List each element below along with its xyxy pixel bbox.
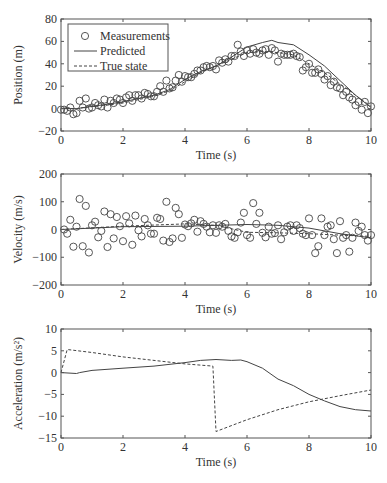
legend: MeasurementsPredictedTrue state — [68, 24, 170, 73]
y-axis-label: Position (m) — [11, 45, 25, 105]
measurement-marker — [129, 241, 136, 248]
measurement-marker — [113, 213, 120, 220]
true-state-line — [61, 350, 371, 432]
x-axis-label: Time (s) — [196, 148, 237, 162]
measurement-marker — [315, 243, 322, 250]
measurement-marker — [175, 211, 182, 218]
y-tick-label: 10 — [45, 322, 57, 336]
measurement-marker — [163, 77, 170, 84]
figure: 0246810−20020406080Time (s)Position (m)M… — [0, 0, 387, 483]
y-tick-label: −5 — [44, 387, 57, 401]
x-tick-label: 2 — [120, 133, 126, 147]
y-tick-label: 40 — [45, 57, 57, 71]
x-tick-label: 10 — [365, 440, 377, 454]
y-tick-label: −15 — [38, 431, 57, 445]
measurement-marker — [247, 234, 254, 241]
measurement-marker — [278, 236, 285, 243]
measurement-marker — [274, 58, 281, 65]
y-tick-label: 80 — [45, 12, 57, 26]
measurement-marker — [281, 229, 288, 236]
legend-label: Measurements — [100, 29, 170, 43]
measurement-marker — [333, 250, 340, 257]
measurement-marker — [132, 212, 139, 219]
y-tick-label: 20 — [45, 79, 57, 93]
y-tick-label: 0 — [51, 223, 57, 237]
measurement-marker — [98, 227, 105, 234]
measurement-marker — [200, 220, 207, 227]
x-tick-label: 6 — [244, 287, 250, 301]
x-tick-label: 10 — [365, 287, 377, 301]
measurement-marker — [70, 243, 77, 250]
x-tick-label: 8 — [306, 287, 312, 301]
x-tick-label: 2 — [120, 287, 126, 301]
predicted-line — [61, 360, 371, 412]
measurement-marker — [346, 248, 353, 255]
x-tick-label: 8 — [306, 440, 312, 454]
velocity-chart: 0246810−200−1000100200Time (s)Velocity (… — [11, 167, 377, 316]
measurement-marker — [312, 250, 319, 257]
acceleration-series — [61, 350, 371, 432]
y-tick-label: 5 — [51, 344, 57, 358]
measurement-marker — [104, 243, 111, 250]
measurement-marker — [157, 83, 164, 90]
measurement-marker — [265, 223, 272, 230]
x-tick-label: 6 — [244, 133, 250, 147]
x-tick-label: 6 — [244, 440, 250, 454]
y-tick-label: 60 — [45, 34, 57, 48]
x-axis-label: Time (s) — [196, 455, 237, 469]
measurement-marker — [364, 110, 371, 117]
measurement-marker — [296, 225, 303, 232]
x-tick-label: 0 — [58, 440, 64, 454]
x-tick-label: 0 — [58, 133, 64, 147]
measurement-marker — [250, 200, 257, 207]
y-tick-label: 100 — [39, 195, 57, 209]
position-chart: 0246810−20020406080Time (s)Position (m)M… — [11, 12, 377, 162]
acceleration-chart: 0246810−15−10−50510Time (s)Acceleration … — [11, 322, 377, 469]
measurement-marker — [163, 198, 170, 205]
measurement-marker — [256, 209, 263, 216]
x-tick-label: 4 — [182, 440, 188, 454]
measurement-marker — [76, 195, 83, 202]
velocity-series — [61, 195, 375, 256]
y-tick-label: 0 — [51, 102, 57, 116]
measurement-marker — [82, 202, 89, 209]
x-axis-label: Time (s) — [196, 302, 237, 316]
y-tick-label: 0 — [51, 366, 57, 380]
measurement-marker — [123, 213, 130, 220]
measurement-marker — [85, 249, 92, 256]
y-tick-label: −200 — [32, 278, 57, 292]
measurement-marker — [138, 233, 145, 240]
measurement-marker — [82, 95, 89, 102]
y-tick-label: −20 — [38, 124, 57, 138]
x-tick-label: 4 — [182, 133, 188, 147]
y-tick-label: −100 — [32, 250, 57, 264]
measurement-marker — [178, 234, 185, 241]
y-axis-label: Velocity (m/s) — [11, 195, 25, 263]
measurement-marker — [321, 232, 328, 239]
measurement-marker — [194, 228, 201, 235]
measurement-marker — [240, 209, 247, 216]
legend-label: True state — [100, 59, 147, 73]
y-tick-label: −10 — [38, 409, 57, 423]
measurement-marker — [336, 218, 343, 225]
measurement-marker — [110, 235, 117, 242]
measurement-marker — [119, 238, 126, 245]
x-tick-label: 4 — [182, 287, 188, 301]
x-tick-label: 8 — [306, 133, 312, 147]
measurement-marker — [253, 220, 260, 227]
measurement-marker — [305, 215, 312, 222]
x-tick-label: 10 — [365, 133, 377, 147]
x-tick-label: 0 — [58, 287, 64, 301]
measurement-marker — [330, 236, 337, 243]
x-tick-label: 2 — [120, 440, 126, 454]
measurement-marker — [67, 216, 74, 223]
measurement-marker — [79, 243, 86, 250]
measurement-marker — [234, 41, 241, 48]
measurement-marker — [318, 215, 325, 222]
legend-label: Predicted — [100, 44, 145, 58]
y-tick-label: 200 — [39, 167, 57, 181]
y-axis-label: Acceleration (m/s²) — [11, 337, 25, 430]
